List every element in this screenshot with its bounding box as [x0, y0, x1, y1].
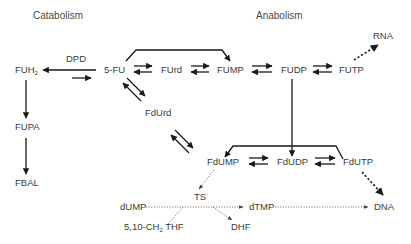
node-fdump: FdUMP [207, 156, 239, 167]
node-5fu: 5-FU [104, 64, 125, 75]
equilibrium-fdudp-fdutp [315, 158, 335, 164]
equilibrium-fdurd-fdump [171, 130, 193, 153]
node-dhf: DHF [231, 221, 251, 232]
node-dump: dUMP [120, 201, 146, 212]
node-fuh2: FUH2 [15, 64, 39, 76]
fluorouracil-metabolism-diagram: Catabolism Anabolism FUH2 FUPA FBAL DPD … [0, 0, 411, 244]
equilibrium-5fu-fdurd [123, 78, 145, 101]
arrow-5fu-to-fump [126, 50, 230, 61]
catabolism-header: Catabolism [33, 10, 83, 21]
node-fbal: FBAL [15, 177, 39, 188]
node-thf: 5,10-CH2 THF [124, 221, 184, 233]
node-fdurd: FdUrd [145, 107, 171, 118]
equilibrium-5fu-furd [134, 66, 152, 72]
equilibrium-fump-fudp [252, 66, 272, 72]
arrow-to-dhf [213, 207, 232, 220]
arrow-fdump-to-ts [199, 170, 214, 189]
enzyme-ts: TS [194, 191, 206, 202]
node-futp: FUTP [339, 64, 364, 75]
arrow-futp-to-rna [354, 45, 378, 60]
node-rna: RNA [373, 30, 394, 41]
node-fdutp: FdUTP [343, 156, 373, 167]
node-fump: FUMP [217, 64, 244, 75]
equilibrium-fudp-futp [313, 66, 332, 72]
node-dna: DNA [374, 201, 395, 212]
enzyme-dpd: DPD [66, 53, 86, 64]
node-furd: FUrd [161, 64, 182, 75]
equilibrium-furd-fump [191, 66, 209, 72]
arrow-fdutp-to-dna [362, 172, 383, 195]
node-fupa: FUPA [15, 121, 40, 132]
equilibrium-fdump-fdudp [249, 158, 268, 164]
node-dtmp: dTMP [249, 201, 274, 212]
node-fdudp: FdUDP [277, 156, 308, 167]
anabolism-header: Anabolism [256, 10, 303, 21]
node-fudp: FUDP [281, 64, 307, 75]
